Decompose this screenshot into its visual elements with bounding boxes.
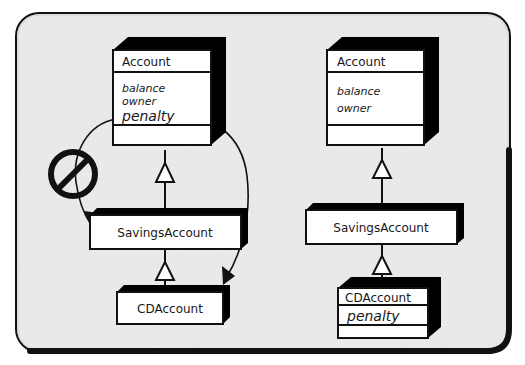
account-left-attribute-owner: owner (122, 95, 157, 108)
class-box-account-left[interactable]: Account balance owner penalty (113, 37, 226, 145)
account-left-attribute-balance: balance (122, 82, 166, 95)
account-right-attribute-balance: balance (337, 85, 381, 98)
class-box-account-right[interactable]: Account balance owner (327, 37, 439, 145)
class-box-savings-account-left[interactable]: SavingsAccount (90, 208, 248, 249)
cd-right-attribute-penalty: penalty (346, 308, 400, 324)
savings-right-title: SavingsAccount (333, 221, 429, 235)
cd-right-title: CDAccount (345, 291, 411, 305)
cd-left-title: CDAccount (137, 302, 203, 316)
savings-left-title: SavingsAccount (117, 226, 213, 240)
account-left-title: Account (122, 55, 171, 69)
account-right-title: Account (337, 55, 386, 69)
account-right-attribute-owner: owner (337, 102, 372, 115)
class-box-cd-account-right[interactable]: CDAccount penalty (338, 277, 441, 338)
account-left-attribute-penalty: penalty (121, 108, 175, 124)
class-box-savings-account-right[interactable]: SavingsAccount (306, 203, 464, 244)
class-box-cd-account-left[interactable]: CDAccount (117, 285, 230, 324)
diagram-canvas: Account balance owner penalty SavingsAcc… (0, 0, 525, 365)
uml-class-diagram: Account balance owner penalty SavingsAcc… (0, 0, 525, 365)
